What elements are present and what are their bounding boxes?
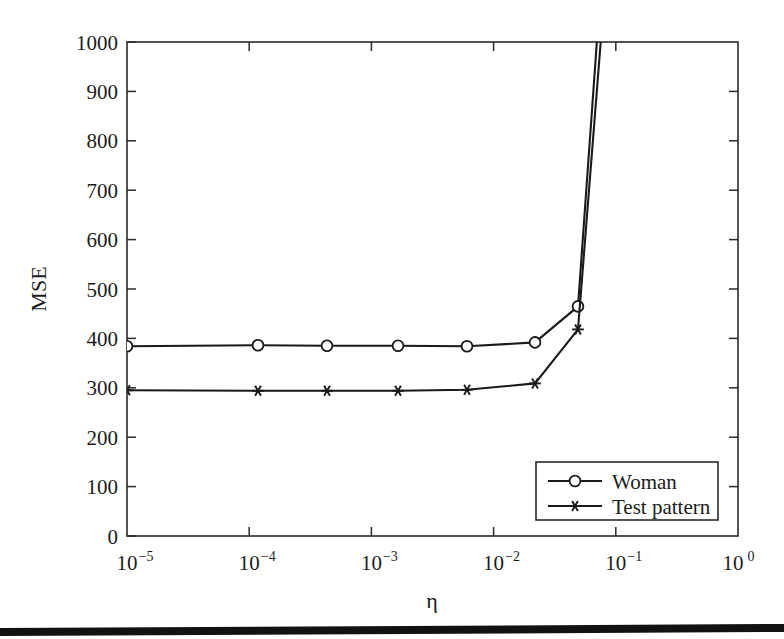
series-woman [122, 0, 601, 352]
svg-text:10: 10 [723, 551, 744, 575]
svg-text:10: 10 [605, 551, 626, 575]
svg-text:−5: −5 [139, 549, 154, 564]
x-tick-label-1e0: 10 0 [723, 549, 755, 575]
x-tick-label-1e-1: 10 −1 [605, 549, 642, 575]
y-axis-ticks [127, 42, 136, 536]
series-test-pattern-line [127, 0, 606, 391]
svg-text:10: 10 [361, 551, 382, 575]
data-point-marker [392, 386, 404, 396]
data-point-marker [322, 340, 333, 351]
x-axis-title: η [426, 588, 438, 613]
y-tick-label-200: 200 [87, 426, 119, 450]
x-tick-label-1e-4: 10 −4 [239, 549, 276, 575]
legend-label-woman: Woman [612, 470, 677, 494]
y-tick-label-700: 700 [87, 179, 119, 203]
data-point-marker [530, 337, 541, 348]
data-point-marker [252, 386, 264, 396]
x-tick-label-1e-3: 10 −3 [361, 549, 398, 575]
data-point-marker [393, 340, 404, 351]
y-tick-label-0: 0 [108, 525, 119, 549]
data-point-marker [321, 386, 333, 396]
y-axis-ticks-right [729, 91, 738, 486]
data-point-marker [573, 301, 584, 312]
y-tick-label-800: 800 [87, 129, 119, 153]
figure-container: 0 100 200 300 400 500 600 700 800 900 10… [0, 0, 784, 639]
svg-text:0: 0 [748, 549, 755, 564]
svg-text:−4: −4 [261, 549, 276, 564]
x-axis-ticks [249, 527, 616, 536]
y-tick-label-600: 600 [87, 228, 119, 252]
svg-text:10: 10 [239, 551, 260, 575]
y-tick-label-100: 100 [87, 475, 119, 499]
y-tick-label-400: 400 [87, 327, 119, 351]
y-tick-label-300: 300 [87, 376, 119, 400]
circle-marker-icon [570, 476, 581, 487]
data-point-marker [462, 341, 473, 352]
y-tick-label-500: 500 [87, 278, 119, 302]
svg-text:10: 10 [483, 551, 504, 575]
data-point-marker [461, 385, 473, 395]
svg-text:−2: −2 [505, 549, 520, 564]
legend-label-test-pattern: Test pattern [612, 495, 711, 519]
svg-text:−3: −3 [383, 549, 398, 564]
y-axis-title: MSE [26, 266, 51, 311]
page-edge-artifact [0, 624, 784, 636]
data-point-marker [253, 340, 264, 351]
svg-text:10: 10 [117, 551, 138, 575]
chart-legend: Woman Test pattern [536, 462, 718, 520]
y-axis-tick-labels: 0 100 200 300 400 500 600 700 800 900 10… [76, 31, 118, 549]
data-point-marker [122, 341, 133, 352]
x-axis-ticks-top [249, 42, 616, 51]
mse-vs-eta-chart: 0 100 200 300 400 500 600 700 800 900 10… [0, 0, 784, 639]
x-axis-tick-labels: 10 −5 10 −4 10 −3 10 −2 10 −1 10 0 [117, 549, 755, 575]
x-tick-label-1e-2: 10 −2 [483, 549, 520, 575]
svg-text:−1: −1 [627, 549, 642, 564]
series-woman-line [127, 0, 601, 346]
y-tick-label-1000: 1000 [76, 31, 118, 55]
y-tick-label-900: 900 [87, 80, 119, 104]
x-tick-label-1e-5: 10 −5 [117, 549, 154, 575]
